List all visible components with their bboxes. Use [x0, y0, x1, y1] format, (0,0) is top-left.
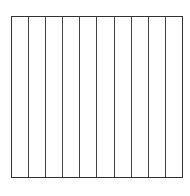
grid-column: [149, 17, 166, 177]
grid-column: [63, 17, 80, 177]
grid-column: [132, 17, 149, 177]
grid-column: [97, 17, 114, 177]
grid-column: [29, 17, 46, 177]
column-grid: [11, 16, 183, 178]
grid-column: [80, 17, 97, 177]
grid-column: [46, 17, 63, 177]
grid-column: [166, 17, 182, 177]
grid-column: [115, 17, 132, 177]
grid-column: [12, 17, 29, 177]
